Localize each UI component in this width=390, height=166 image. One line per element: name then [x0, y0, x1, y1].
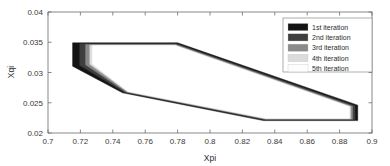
x-tick-label: 0.76 — [137, 137, 153, 146]
x-tick-label: 0.9 — [366, 137, 378, 146]
x-axis-title: Xpi — [204, 153, 216, 163]
x-tick-label: 0.74 — [105, 137, 121, 146]
x-tick-label: 0.84 — [267, 137, 283, 146]
chart-figure: 0.70.720.740.760.780.80.820.840.860.880.… — [0, 0, 390, 166]
y-tick-label: 0.025 — [23, 99, 44, 108]
y-tick-label: 0.02 — [27, 129, 43, 138]
legend-label-4: 4th iteration — [312, 55, 349, 62]
x-tick-label: 0.72 — [73, 137, 89, 146]
chart-legend: 1st iteration2nd iteration3rd iteration4… — [283, 18, 372, 72]
x-tick-label: 0.88 — [332, 137, 348, 146]
x-tick-label: 0.82 — [235, 137, 251, 146]
legend-swatch-3 — [288, 44, 308, 51]
x-tick-label: 0.78 — [170, 137, 186, 146]
legend-swatch-5 — [288, 65, 308, 72]
legend-label-5: 5th iteration — [312, 65, 349, 72]
legend-swatch-1 — [288, 24, 308, 31]
legend-swatch-4 — [288, 54, 308, 61]
x-tick-label: 0.8 — [204, 137, 216, 146]
x-tick-label: 0.7 — [42, 137, 54, 146]
x-tick-label: 0.86 — [299, 137, 315, 146]
y-axis-title: Xqi — [6, 66, 16, 78]
legend-label-1: 1st iteration — [312, 24, 348, 31]
chart-canvas: 0.70.720.740.760.780.80.820.840.860.880.… — [0, 0, 390, 166]
legend-label-2: 2nd iteration — [312, 34, 351, 41]
y-tick-label: 0.04 — [27, 8, 43, 17]
legend-swatch-2 — [288, 34, 308, 41]
y-tick-label: 0.035 — [23, 38, 44, 47]
y-tick-label: 0.03 — [27, 69, 43, 78]
legend-label-3: 3rd iteration — [312, 44, 349, 51]
